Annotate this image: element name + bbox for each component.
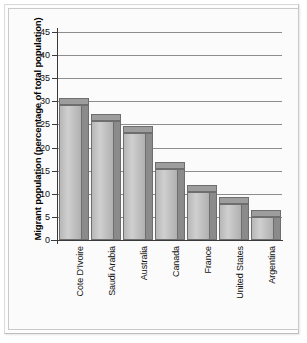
y-axis-tick-mark [52,55,58,56]
bar-top-face [123,126,153,133]
y-axis-tick-mark [52,101,58,102]
bar-top-face [59,98,89,105]
y-axis-tick-label: 5 [28,212,50,222]
bar-front-face [91,121,114,240]
x-axis-line [51,240,283,241]
bar-side-face [210,192,217,240]
bar-front-face [187,192,210,240]
gridline [58,32,282,33]
y-axis-tick-label: 25 [28,119,50,129]
bar-top-face [251,210,281,217]
bar-top-face [219,197,249,204]
y-axis-tick-mark [52,78,58,79]
bar [123,126,153,240]
bar [155,162,185,240]
x-axis-category-label: Canada [171,246,181,343]
y-axis-tick-labels: 454035302520151050 [24,0,50,343]
bar-top-face [155,162,185,169]
gridline [58,78,282,79]
y-axis-tick-mark [52,217,58,218]
bar [251,210,281,240]
y-axis-tick-mark [52,32,58,33]
y-axis-tick-mark [52,194,58,195]
y-axis-tick-label: 35 [28,73,50,83]
bar [59,98,89,240]
bar-side-face [146,133,153,240]
y-axis-tick-mark [52,240,58,241]
bar-front-face [155,169,178,240]
x-axis-category-label: Australia [139,246,149,343]
y-axis-tick-mark [52,124,58,125]
gridline [58,101,282,102]
y-axis-tick-mark [52,148,58,149]
bar-front-face [219,204,242,240]
bar-front-face [251,217,274,240]
bar [219,197,249,240]
bar-side-face [178,169,185,240]
y-axis-tick-label: 10 [28,189,50,199]
y-axis-tick-mark [52,171,58,172]
x-axis-category-label: Cote D'Ivoire [75,246,85,343]
bar-side-face [114,121,121,240]
y-axis-tick-label: 40 [28,50,50,60]
bar-side-face [274,217,281,240]
y-axis-tick-label: 20 [28,143,50,153]
bar-top-face [91,114,121,121]
chart-figure: Migrant population (percentage of total … [0,0,307,343]
bar-side-face [242,204,249,240]
bar-side-face [82,105,89,240]
bar-front-face [59,105,82,240]
bar-front-face [123,133,146,240]
gridline [58,55,282,56]
y-axis-tick-label: 0 [28,235,50,245]
x-axis-category-label: Saudi Arabia [107,246,117,343]
x-axis-category-label: United States [235,246,245,343]
bar [187,185,217,240]
plot-area [58,32,282,240]
x-axis-category-label: France [203,246,213,343]
y-axis-tick-label: 15 [28,166,50,176]
y-axis-tick-label: 45 [28,27,50,37]
bar-top-face [187,185,217,192]
x-axis-category-label: Argentina [267,246,277,343]
y-axis-tick-label: 30 [28,96,50,106]
bar [91,114,121,240]
